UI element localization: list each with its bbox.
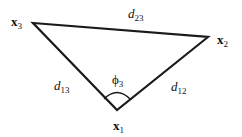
vertex-label-x2: x2: [217, 33, 228, 49]
triangle-edges: [33, 23, 208, 110]
triangle-diagram: x3 x2 x1 d23 d13 d12 ϕ3: [0, 0, 242, 137]
angle-arc: [104, 93, 130, 100]
vertex-label-x3: x3: [11, 15, 22, 31]
edge-label-d12: d12: [171, 80, 187, 96]
vertex-label-x1: x1: [113, 119, 124, 135]
edge-label-d23: d23: [128, 7, 144, 23]
angle-label-phi3: ϕ3: [112, 73, 123, 89]
edge-label-d13: d13: [54, 79, 70, 95]
triangle-lines: [0, 0, 242, 137]
